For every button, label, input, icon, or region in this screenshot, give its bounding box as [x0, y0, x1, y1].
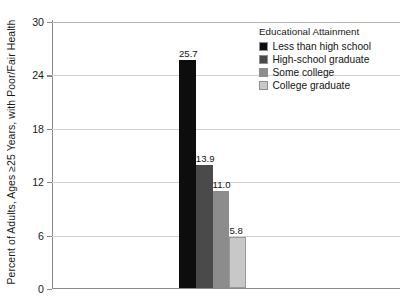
legend-item-label: Some college [273, 67, 335, 78]
legend-item[interactable]: College graduate [259, 79, 371, 92]
legend-item[interactable]: Less than high school [259, 40, 371, 53]
y-tick-label: 18 [32, 123, 44, 135]
legend-swatch-icon [259, 55, 268, 64]
legend-item-label: High-school graduate [273, 54, 370, 65]
y-axis-title: Percent of Adults, Ages ≥25 Years, with … [0, 0, 22, 304]
y-tick-mark [47, 22, 52, 23]
bar-chart-figure: Percent of Adults, Ages ≥25 Years, with … [0, 0, 404, 304]
legend-title: Educational Attainment [259, 26, 371, 37]
y-tick-label: 24 [32, 69, 44, 81]
bar: 25.7 [179, 60, 196, 289]
legend-item-label: Less than high school [273, 41, 372, 52]
bar: 13.9 [196, 165, 213, 289]
gridline [52, 129, 400, 130]
legend-swatch-icon [259, 42, 268, 51]
bar-value-label: 5.8 [229, 225, 242, 236]
y-tick-label: 12 [32, 176, 44, 188]
y-tick-label: 0 [38, 283, 44, 295]
legend-item[interactable]: High-school graduate [259, 53, 371, 66]
y-tick-label: 30 [32, 16, 44, 28]
y-tick-mark [47, 182, 52, 183]
y-tick-mark [47, 236, 52, 237]
gridline [52, 22, 400, 23]
y-tick-label: 6 [38, 230, 44, 242]
legend-items: Less than high schoolHigh-school graduat… [259, 40, 371, 93]
bar-value-label: 25.7 [179, 48, 198, 59]
bar-value-label: 11.0 [213, 179, 231, 190]
y-tick-mark [47, 129, 52, 130]
y-axis-line [52, 20, 53, 289]
bar: 5.8 [229, 237, 246, 289]
legend: Educational Attainment Less than high sc… [259, 26, 371, 92]
legend-swatch-icon [259, 81, 268, 90]
legend-swatch-icon [259, 68, 268, 77]
bar-value-label: 13.9 [196, 153, 215, 164]
y-tick-mark [47, 75, 52, 76]
y-tick-mark [47, 289, 52, 290]
legend-item-label: College graduate [273, 80, 351, 91]
bar: 11.0 [213, 191, 230, 289]
legend-item[interactable]: Some college [259, 66, 371, 79]
